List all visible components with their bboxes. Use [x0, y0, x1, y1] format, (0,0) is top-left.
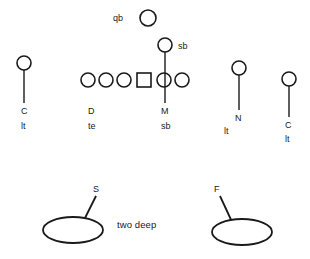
defensive-lineman-d-label-primary: D	[88, 107, 95, 116]
corner-left-label-primary: C	[21, 107, 28, 116]
mike-linebacker-label-secondary: sb	[161, 122, 171, 131]
strong-safety-zone-ellipse	[43, 217, 103, 243]
lineman-4-marker	[157, 73, 171, 87]
corner-right-marker	[282, 72, 296, 86]
corner-left-label-secondary: lt	[21, 122, 26, 131]
strong-safety-label: S	[93, 185, 99, 194]
corner-left-marker	[17, 56, 31, 70]
slotback-top-marker	[158, 38, 172, 52]
quarterback-marker	[140, 10, 156, 26]
center-marker	[137, 73, 151, 87]
nickel-back-label-secondary: lt	[224, 127, 229, 136]
defensive-lineman-d-label-secondary: te	[88, 122, 96, 131]
slotback-top-label: sb	[178, 42, 188, 51]
nickel-back-marker	[232, 61, 246, 75]
offensive-line-group	[81, 73, 189, 87]
formation-diagram: qb sb C lt D te M sb N lt C lt S F two d…	[0, 0, 310, 259]
lineman-2-marker	[99, 73, 113, 87]
corner-right-label-primary: C	[285, 121, 292, 130]
nickel-back-label-primary: N	[235, 114, 242, 123]
free-safety-zone-ellipse	[212, 219, 272, 245]
lineman-3-marker	[117, 73, 131, 87]
quarterback-label: qb	[113, 14, 123, 23]
corner-right-label-secondary: lt	[285, 135, 290, 144]
mike-linebacker-label-primary: M	[161, 107, 169, 116]
free-safety-label: F	[214, 185, 220, 194]
lineman-1-marker	[81, 73, 95, 87]
lineman-5-marker	[175, 73, 189, 87]
coverage-caption: two deep	[117, 220, 156, 230]
